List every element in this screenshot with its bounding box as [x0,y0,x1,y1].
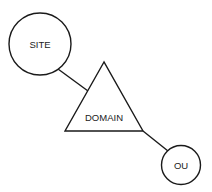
node-site: SITE [9,13,71,75]
node-ou: OU [162,146,201,185]
edge-site-domain [58,69,88,91]
diagram-canvas: SITE DOMAIN OU [0,0,212,192]
node-domain: DOMAIN [65,62,143,131]
site-label: SITE [29,39,50,50]
edge-domain-ou [143,131,168,151]
domain-label: DOMAIN [85,112,123,123]
ou-label: OU [174,160,188,171]
